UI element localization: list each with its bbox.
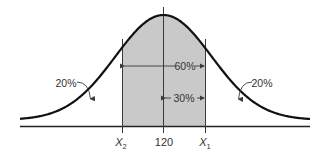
right-tail-label: 20% [251,77,272,89]
thirty-percent-label: 30% [173,92,194,104]
mean-label: 120 [155,136,173,148]
x1-label: X1 [198,136,211,151]
left-tail-label: 20% [55,77,76,89]
normal-distribution-diagram: 60% 30% 20% 20% X2 120 X1 [0,0,328,163]
x2-label: X2 [114,136,127,151]
sixty-percent-label: 60% [174,60,195,72]
